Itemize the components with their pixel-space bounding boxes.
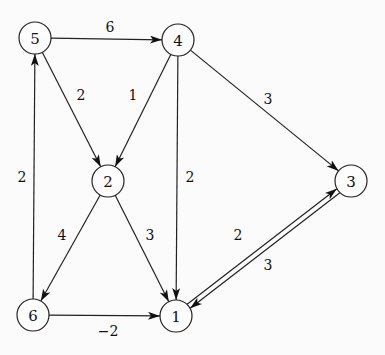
edge-weight-4-1: 2 — [186, 169, 195, 185]
arrow-icon — [115, 54, 171, 166]
edge-weight-2-1: 3 — [146, 227, 155, 243]
edge-weights-layer: 62132432−223 — [18, 19, 273, 339]
arrow-icon — [115, 195, 169, 301]
edge-1-to-3 — [187, 189, 337, 304]
edge-weight-5-4: 6 — [106, 19, 115, 35]
edge-weight-5-2: 2 — [77, 87, 86, 103]
arrow-icon — [42, 52, 100, 166]
node-label: 3 — [346, 173, 356, 191]
edge-weight-2-6: 4 — [58, 227, 67, 243]
edge-5-to-4 — [51, 38, 162, 40]
edge-weight-1-3: 2 — [234, 227, 243, 243]
node-4: 4 — [162, 24, 194, 56]
edge-4-to-2 — [115, 54, 171, 166]
arrow-icon — [187, 189, 337, 304]
arrow-icon — [33, 54, 35, 299]
node-3: 3 — [335, 165, 367, 197]
edge-6-to-5 — [33, 54, 35, 299]
edge-5-to-2 — [42, 52, 100, 166]
node-1: 1 — [160, 300, 192, 332]
edge-4-to-3 — [190, 50, 338, 171]
edge-weight-3-1: 3 — [264, 257, 273, 273]
edge-weight-4-2: 1 — [129, 87, 138, 103]
graph-canvas: 62132432−223 123456 — [0, 0, 385, 355]
edge-weight-6-1: −2 — [98, 323, 119, 339]
node-2: 2 — [92, 165, 124, 197]
arrow-icon — [190, 193, 340, 308]
node-label: 2 — [103, 173, 113, 191]
node-label: 5 — [30, 30, 40, 48]
arrow-icon — [190, 50, 338, 171]
edge-2-to-6 — [41, 195, 100, 301]
arrow-icon — [176, 56, 178, 300]
arrow-icon — [41, 195, 100, 301]
node-5: 5 — [19, 22, 51, 54]
node-label: 1 — [171, 308, 181, 326]
edge-weight-4-3: 3 — [264, 91, 273, 107]
node-6: 6 — [17, 299, 49, 331]
edge-3-to-1 — [190, 193, 340, 308]
node-label: 6 — [28, 307, 38, 325]
edge-4-to-1 — [176, 56, 178, 300]
arrow-icon — [49, 315, 160, 316]
arrow-icon — [51, 38, 162, 40]
node-label: 4 — [173, 32, 183, 50]
edge-weight-6-5: 2 — [18, 169, 27, 185]
edge-6-to-1 — [49, 315, 160, 316]
edge-2-to-1 — [115, 195, 169, 301]
graph-diagram: 62132432−223 123456 — [0, 0, 385, 355]
